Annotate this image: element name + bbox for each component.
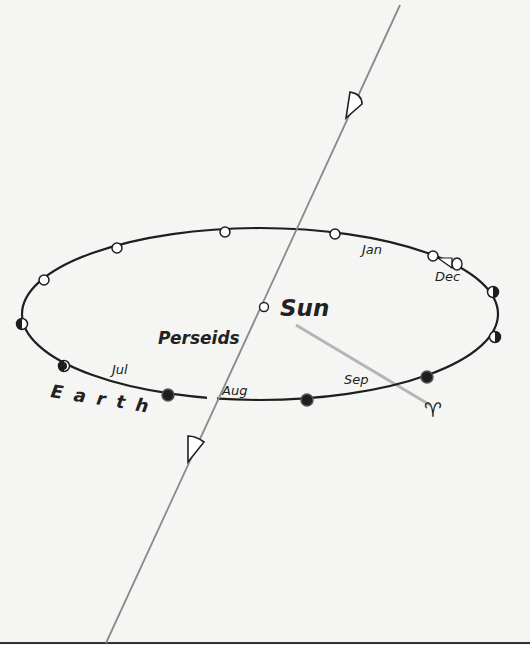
earth-marker xyxy=(488,287,499,298)
sun-icon xyxy=(260,303,269,312)
earth-marker xyxy=(39,275,49,285)
earth-marker xyxy=(301,394,313,406)
earth-marker-dec xyxy=(428,251,438,261)
stream-arrow-top-icon xyxy=(346,92,362,118)
diagram-canvas: Sun Perseids Earth Jan Dec Jul Aug Sep ♈ xyxy=(0,0,530,645)
aries-symbol-icon: ♈ xyxy=(424,398,442,422)
perseids-diagram: Sun Perseids Earth Jan Dec Jul Aug Sep ♈ xyxy=(0,0,530,645)
month-label-jan: Jan xyxy=(359,242,382,257)
month-label-jul: Jul xyxy=(109,362,128,377)
month-label-dec: Dec xyxy=(435,269,460,284)
month-label-sep: Sep xyxy=(344,372,369,387)
earth-marker-jan xyxy=(330,229,340,239)
month-label-aug: Aug xyxy=(221,383,247,398)
earth-marker-sep xyxy=(421,371,433,383)
earth-marker xyxy=(220,227,230,237)
sun-label: Sun xyxy=(280,295,329,321)
vernal-equinox-line xyxy=(296,325,430,405)
earth-marker-jul xyxy=(59,361,70,372)
earth-marker-aug xyxy=(162,389,174,401)
earth-marker xyxy=(112,243,122,253)
orbit-gap xyxy=(207,392,217,404)
stream-arrow-bottom-icon xyxy=(188,436,204,462)
earth-label: Earth xyxy=(49,380,161,418)
earth-marker xyxy=(490,332,501,343)
earth-marker xyxy=(17,319,28,330)
perseids-label: Perseids xyxy=(158,328,240,348)
